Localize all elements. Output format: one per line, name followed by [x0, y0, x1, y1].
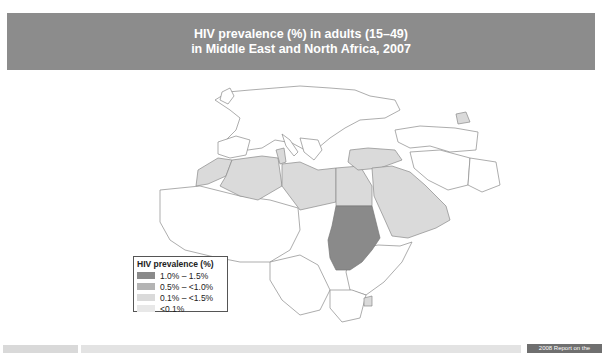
country-libya: [282, 162, 336, 210]
map-legend: HIV prevalence (%) 1.0% – 1.5% 0.5% – <1…: [133, 256, 228, 312]
title-line-2: in Middle East and North Africa, 2007: [191, 42, 411, 57]
title-line-1: HIV prevalence (%) in adults (15–49): [194, 27, 408, 42]
west-africa: [160, 186, 300, 262]
title-banner: HIV prevalence (%) in adults (15–49) in …: [7, 13, 595, 70]
legend-title: HIV prevalence (%): [137, 259, 224, 269]
country-egypt: [336, 166, 372, 206]
legend-item: <0.1%: [137, 303, 224, 314]
legend-item: 0.1% – <1.5%: [137, 292, 224, 303]
regional-map: [0, 70, 602, 340]
legend-label: 0.5% – <1.0%: [160, 282, 213, 292]
legend-swatch: [137, 305, 155, 312]
legend-item: 1.0% – 1.5%: [137, 270, 224, 281]
legend-item: 0.5% – <1.0%: [137, 281, 224, 292]
country-rwanda-patch: [364, 296, 372, 306]
legend-swatch: [137, 272, 155, 279]
footer-bar-left: [3, 345, 78, 353]
legend-swatch: [137, 294, 155, 301]
central-africa: [270, 255, 330, 315]
afghanistan-pakistan: [468, 158, 500, 192]
iberia: [218, 136, 250, 158]
country-kazakhstan-patch: [456, 112, 470, 124]
legend-label: 1.0% – 1.5%: [160, 271, 208, 281]
legend-label: <0.1%: [160, 304, 184, 314]
east-africa: [330, 290, 366, 322]
footer-report-label: 2008 Report on the: [527, 344, 602, 353]
central-asia: [395, 126, 478, 152]
balkans-greece: [300, 138, 322, 160]
legend-swatch: [137, 283, 155, 290]
legend-label: 0.1% – <1.5%: [160, 293, 213, 303]
footer-bar-middle: [81, 345, 521, 353]
